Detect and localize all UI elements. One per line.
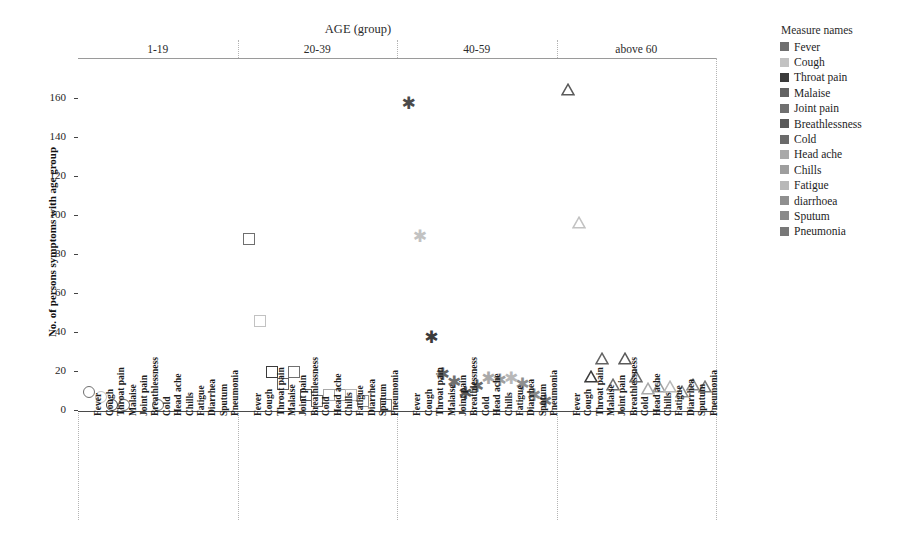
x-tick-label-pneumonia: Pneumonia [230, 370, 240, 416]
legend-rows: FeverCoughThroat painMalaiseJoint painBr… [780, 39, 902, 239]
x-tick-label-cold: Cold [321, 396, 331, 416]
x-tick-label-diarrhea: Diarrhea [526, 379, 536, 416]
x-tick-label-head-ache: Head ache [333, 374, 343, 416]
y-tick-label: 120 [8, 169, 66, 181]
x-tick-label-throat-pain: Throat pain [116, 367, 126, 416]
panel-header-20-39: 20-39 [238, 40, 398, 58]
x-tick-label-fatigue: Fatigue [196, 385, 206, 416]
legend-item-cough[interactable]: Cough [780, 54, 902, 69]
x-tick-label-cold: Cold [481, 396, 491, 416]
x-tick-label-breathlessness: Breathlessness [310, 357, 320, 416]
x-tick-label-fever: Fever [93, 393, 103, 416]
legend-swatch-icon [780, 58, 789, 67]
panel-header-1-19: 1-19 [78, 40, 238, 58]
x-tick-label-pneumonia: Pneumonia [709, 370, 719, 416]
x-tick-label-joint-pain: Joint pain [458, 375, 468, 416]
x-tick-label-cough: Cough [264, 389, 274, 416]
legend-title: Measure names [781, 24, 902, 36]
data-point-above-60-cough[interactable] [572, 215, 586, 233]
legend-swatch-icon [780, 150, 789, 159]
x-tick-label-breathlessness: Breathlessness [150, 357, 160, 416]
panel-header-divider [238, 40, 239, 58]
x-tick-label-fatigue: Fatigue [355, 385, 365, 416]
legend-item-cold[interactable]: Cold [780, 131, 902, 146]
legend-item-label: Breathlessness [794, 118, 862, 130]
x-tick-label-head-ache: Head ache [173, 374, 183, 416]
legend-swatch-icon [780, 227, 789, 236]
y-tick-label: 40 [8, 325, 66, 337]
data-point-40-59-cough[interactable]: ✱ [413, 230, 427, 241]
x-tick-label-malaise: Malaise [128, 384, 138, 416]
x-tick-label-sputum: Sputum [378, 384, 388, 416]
legend-item-pneumonia[interactable]: Pneumonia [780, 224, 902, 239]
x-tick-label-breathlessness: Breathlessness [469, 357, 479, 416]
x-tick-label-cough: Cough [424, 389, 434, 416]
legend-swatch-icon [780, 42, 789, 51]
y-tick-label: 20 [8, 364, 66, 376]
legend-item-label: Throat pain [794, 71, 847, 83]
legend-item-label: Head ache [794, 148, 842, 160]
y-tick-label: 0 [8, 403, 66, 415]
legend-swatch-icon [780, 88, 789, 97]
x-tick-label-throat-pain: Throat pain [435, 367, 445, 416]
panel-header-above-60: above 60 [557, 40, 717, 58]
legend-swatch-icon [780, 211, 789, 220]
data-point-20-39-fever[interactable] [243, 233, 255, 245]
y-tick-label: 140 [8, 130, 66, 142]
legend-item-diarrhoea[interactable]: diarrhoea [780, 193, 902, 208]
legend-swatch-icon [780, 104, 789, 113]
legend-item-fever[interactable]: Fever [780, 39, 902, 54]
legend-swatch-icon [780, 196, 789, 205]
data-point-40-59-throat-pain[interactable]: ✱ [424, 331, 438, 342]
legend-swatch-icon [780, 181, 789, 190]
y-tick-label: 160 [8, 91, 66, 103]
x-tick-label-malaise: Malaise [447, 384, 457, 416]
chart-canvas: AGE (group) No. of persons symptoms with… [0, 0, 902, 545]
x-tick-label-chills: Chills [344, 392, 354, 416]
x-tick-label-cold: Cold [162, 396, 172, 416]
legend-item-label: Fever [794, 41, 820, 53]
data-point-40-59-fever[interactable]: ✱ [401, 97, 415, 108]
legend-item-fatigue[interactable]: Fatigue [780, 178, 902, 193]
x-tick-label-diarrhea: Diarrhea [686, 379, 696, 416]
x-tick-label-fever: Fever [572, 393, 582, 416]
plot-area: ✱✱✱✱✱✱✱✱✱✱✱✱✱ [78, 58, 716, 412]
x-tick-label-pneumonia: Pneumonia [549, 370, 559, 416]
legend-item-label: Cough [794, 56, 825, 68]
x-tick-label-chills: Chills [663, 392, 673, 416]
x-tick-label-sputum: Sputum [538, 384, 548, 416]
legend-item-breathlessness[interactable]: Breathlessness [780, 116, 902, 131]
legend-item-head-ache[interactable]: Head ache [780, 147, 902, 162]
y-tick-label: 80 [8, 247, 66, 259]
x-tick-label-diarrhea: Diarrhea [207, 379, 217, 416]
panel-header-divider [397, 40, 398, 58]
panel-header-divider [557, 40, 558, 58]
x-tick-label-throat-pain: Throat pain [595, 367, 605, 416]
legend-item-label: Joint pain [794, 102, 839, 114]
x-tick-label-fever: Fever [412, 393, 422, 416]
data-point-above-60-fever[interactable] [561, 82, 575, 100]
legend-item-joint-pain[interactable]: Joint pain [780, 101, 902, 116]
y-tick-label: 100 [8, 208, 66, 220]
legend-item-malaise[interactable]: Malaise [780, 85, 902, 100]
x-tick-label-breathlessness: Breathlessness [629, 357, 639, 416]
legend-item-label: Cold [794, 133, 816, 145]
x-tick-label-joint-pain: Joint pain [139, 375, 149, 416]
legend-item-throat-pain[interactable]: Throat pain [780, 70, 902, 85]
legend-item-label: Chills [794, 164, 821, 176]
x-tick-label-cough: Cough [105, 389, 115, 416]
x-tick-label-malaise: Malaise [606, 384, 616, 416]
legend-item-sputum[interactable]: Sputum [780, 208, 902, 223]
x-tick-label-sputum: Sputum [219, 384, 229, 416]
x-tick-label-fatigue: Fatigue [674, 385, 684, 416]
x-tick-label-malaise: Malaise [287, 384, 297, 416]
x-tick-label-pneumonia: Pneumonia [390, 370, 400, 416]
x-tick-label-fever: Fever [253, 393, 263, 416]
legend-item-chills[interactable]: Chills [780, 162, 902, 177]
x-tick-label-joint-pain: Joint pain [298, 375, 308, 416]
x-tick-label-chills: Chills [185, 392, 195, 416]
legend-swatch-icon [780, 135, 789, 144]
plot-frame-edge [716, 58, 717, 520]
x-tick-label-cold: Cold [640, 396, 650, 416]
data-point-20-39-cough[interactable] [254, 315, 266, 327]
